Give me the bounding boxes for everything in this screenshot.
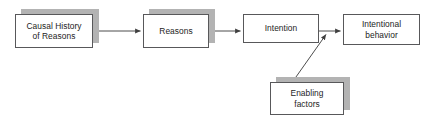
node-label-intention: Intention [263, 23, 300, 34]
node-intention[interactable]: Intention [243, 14, 319, 43]
node-intentional-behavior[interactable]: Intentional behavior [343, 14, 420, 45]
node-causal-history[interactable]: Causal History of Reasons [15, 14, 93, 48]
node-label-reasons: Reasons [157, 26, 194, 37]
node-reasons[interactable]: Reasons [143, 14, 209, 48]
node-label-intentional-behavior: Intentional behavior [360, 19, 403, 40]
flow-diagram: Causal History of Reasons Reasons Intent… [0, 0, 425, 120]
node-label-causal-history: Causal History of Reasons [24, 21, 83, 42]
node-label-enabling-factors: Enabling factors [289, 88, 326, 109]
node-enabling-factors[interactable]: Enabling factors [270, 82, 344, 115]
